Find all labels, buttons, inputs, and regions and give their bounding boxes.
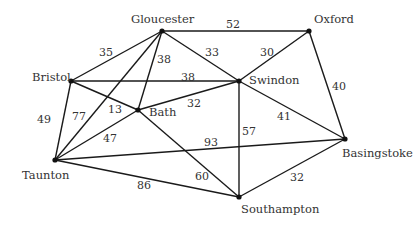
edge-weight-oxford-basingstoke: 40 <box>332 80 346 93</box>
edge-bristol-bath <box>71 81 138 110</box>
node-label-bath: Bath <box>149 105 177 119</box>
edge-weight-gloucester-taunton: 77 <box>72 110 86 123</box>
edge-weight-bristol-swindon: 38 <box>181 71 195 84</box>
edge-weight-southampton-basingstoke: 32 <box>290 171 304 184</box>
edge-weight-bristol-bath: 13 <box>108 103 122 116</box>
edge-weight-taunton-basingstoke: 93 <box>204 136 218 149</box>
graph-diagram: 523533387730403813493247609386574132 Glo… <box>0 0 419 225</box>
edge-weight-swindon-basingstoke: 41 <box>277 110 291 123</box>
node-label-gloucester: Gloucester <box>131 12 195 26</box>
edge-weight-bath-taunton: 47 <box>103 132 117 145</box>
edge-gloucester-swindon <box>162 31 239 81</box>
node-oxford <box>306 28 311 33</box>
edge-bristol-taunton <box>55 81 71 160</box>
edge-southampton-basingstoke <box>239 139 345 197</box>
node-label-basingstoke: Basingstoke <box>342 146 413 160</box>
edge-weight-swindon-southampton: 57 <box>242 125 256 138</box>
node-southampton <box>236 194 241 199</box>
edge-weight-taunton-southampton: 86 <box>137 179 151 192</box>
node-basingstoke <box>342 136 347 141</box>
edge-weight-gloucester-bristol: 35 <box>99 46 113 59</box>
edge-bath-taunton <box>55 110 138 160</box>
edge-weight-gloucester-oxford: 52 <box>226 18 240 31</box>
edge-weight-bristol-taunton: 49 <box>37 113 51 126</box>
node-label-southampton: Southampton <box>241 202 320 216</box>
edge-weight-bath-swindon: 32 <box>187 97 201 110</box>
edge-weight-bath-southampton: 60 <box>195 170 209 183</box>
node-taunton <box>52 157 57 162</box>
edge-gloucester-bristol <box>71 31 162 81</box>
edge-weight-gloucester-swindon: 33 <box>205 46 219 59</box>
node-bath <box>135 107 140 112</box>
node-swindon <box>236 78 241 83</box>
edge-weight-gloucester-bath: 38 <box>157 53 171 66</box>
node-gloucester <box>159 28 164 33</box>
node-label-oxford: Oxford <box>314 12 355 26</box>
node-label-taunton: Taunton <box>22 168 70 182</box>
edge-taunton-basingstoke <box>55 139 345 160</box>
edge-weight-oxford-swindon: 30 <box>260 46 274 59</box>
node-label-bristol: Bristol <box>32 70 71 84</box>
node-label-swindon: Swindon <box>249 73 300 87</box>
